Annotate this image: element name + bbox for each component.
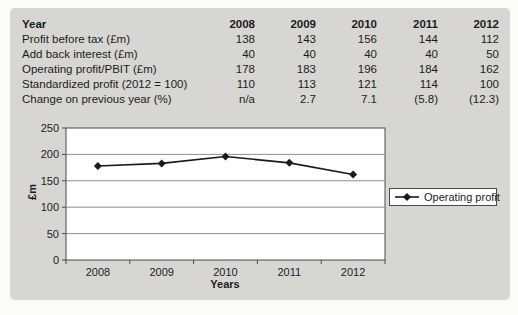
table-cell: n/a — [194, 92, 255, 107]
table-cell: 184 — [377, 62, 438, 77]
table-cell: 143 — [255, 32, 316, 47]
plot-area — [66, 128, 385, 260]
y-tick-label: 250 — [41, 122, 59, 134]
row-label: Standardized profit (2012 = 100) — [22, 77, 194, 92]
table-cell: 121 — [316, 77, 377, 92]
x-tick-label: 2010 — [213, 266, 237, 278]
table-cell: 144 — [377, 32, 438, 47]
row-label: Operating profit/PBIT (£m) — [22, 62, 194, 77]
y-axis-title: £m — [26, 172, 42, 212]
table-cell: 112 — [438, 32, 499, 47]
table-cell: 162 — [438, 62, 499, 77]
table-cell: (12.3) — [438, 92, 499, 107]
row-label: Year — [22, 17, 194, 32]
table-cell: 138 — [194, 32, 255, 47]
table-cell: (5.8) — [377, 92, 438, 107]
table-cell: 100 — [438, 77, 499, 92]
x-tick-label: 2012 — [341, 266, 365, 278]
table-cell: 114 — [377, 77, 438, 92]
table-cell: 196 — [316, 62, 377, 77]
year-header: 2008 — [194, 17, 255, 32]
row-label: Profit before tax (£m) — [22, 32, 194, 47]
table-cell: 110 — [194, 77, 255, 92]
table-cell: 113 — [255, 77, 316, 92]
x-tick-label: 2009 — [149, 266, 173, 278]
table-header-row: Year 2008 2009 2010 2011 2012 — [22, 17, 499, 32]
year-header: 2011 — [377, 17, 438, 32]
y-tick-label: 150 — [41, 175, 59, 187]
table-row: Standardized profit (2012 = 100) 110 113… — [22, 77, 499, 92]
row-label: Change on previous year (%) — [22, 92, 194, 107]
table-cell: 40 — [194, 47, 255, 62]
legend: Operating profit — [389, 188, 497, 206]
table-cell: 7.1 — [316, 92, 377, 107]
table-cell: 156 — [316, 32, 377, 47]
table-row: Change on previous year (%) n/a 2.7 7.1 … — [22, 92, 499, 107]
financial-table: Year 2008 2009 2010 2011 2012 Profit bef… — [22, 17, 499, 107]
year-header: 2009 — [255, 17, 316, 32]
y-tick-label: 0 — [53, 254, 59, 266]
x-tick-label: 2011 — [277, 266, 301, 278]
legend-label: Operating profit — [424, 191, 500, 203]
y-tick-label: 200 — [41, 148, 59, 160]
table-row: Profit before tax (£m) 138 143 156 144 1… — [22, 32, 499, 47]
line-chart-canvas: 05010015020025020082009201020112012 — [10, 120, 510, 300]
legend-line-marker-icon — [394, 192, 420, 202]
table-cell: 40 — [255, 47, 316, 62]
table-cell: 2.7 — [255, 92, 316, 107]
table-cell: 40 — [377, 47, 438, 62]
x-tick-label: 2008 — [86, 266, 110, 278]
y-tick-label: 100 — [41, 201, 59, 213]
table-cell: 40 — [316, 47, 377, 62]
table-cell: 183 — [255, 62, 316, 77]
y-tick-label: 50 — [47, 228, 59, 240]
row-label: Add back interest (£m) — [22, 47, 194, 62]
year-header: 2012 — [438, 17, 499, 32]
table-cell: 50 — [438, 47, 499, 62]
x-axis-title: Years — [195, 278, 255, 290]
table-row: Add back interest (£m) 40 40 40 40 50 — [22, 47, 499, 62]
table-cell: 178 — [194, 62, 255, 77]
year-header: 2010 — [316, 17, 377, 32]
table-row: Operating profit/PBIT (£m) 178 183 196 1… — [22, 62, 499, 77]
figure-panel: Year 2008 2009 2010 2011 2012 Profit bef… — [10, 8, 510, 300]
operating-profit-chart: 05010015020025020082009201020112012 £m Y… — [10, 120, 510, 300]
